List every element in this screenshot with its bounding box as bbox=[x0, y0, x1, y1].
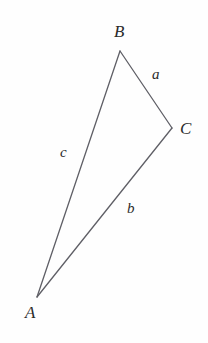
side-c-segment-AB bbox=[37, 51, 120, 297]
side-b-segment-CA bbox=[37, 128, 172, 297]
side-a-segment-BC bbox=[120, 51, 172, 128]
side-label-a: a bbox=[152, 67, 160, 82]
vertex-label-c: C bbox=[180, 120, 191, 137]
vertex-label-a: A bbox=[25, 304, 35, 321]
triangle-svg-canvas bbox=[0, 0, 208, 343]
triangle-diagram: A B C a b c bbox=[0, 0, 208, 343]
triangle-outline bbox=[37, 51, 172, 297]
side-label-c: c bbox=[60, 145, 67, 160]
vertex-label-b: B bbox=[114, 23, 124, 40]
side-label-b: b bbox=[127, 201, 135, 216]
